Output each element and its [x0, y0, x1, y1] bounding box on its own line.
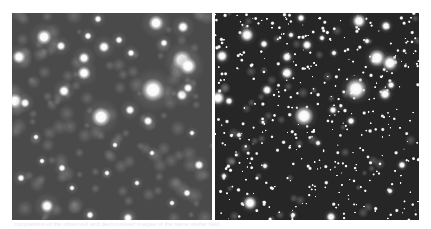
star [236, 132, 242, 138]
faint-star [412, 112, 414, 114]
background-noise [91, 167, 100, 176]
faint-star [373, 206, 378, 211]
faint-star [390, 183, 393, 186]
faint-star [337, 162, 340, 165]
star [177, 21, 189, 33]
faint-star [347, 194, 349, 196]
star [194, 160, 204, 170]
faint-star [301, 203, 303, 205]
faint-star [307, 34, 309, 36]
faint-star [399, 86, 401, 88]
star [262, 163, 268, 169]
background-noise [247, 99, 255, 107]
faint-star [336, 174, 338, 176]
faint-star [402, 212, 404, 214]
faint-star [361, 149, 364, 152]
faint-star [330, 120, 334, 124]
faint-star [414, 213, 417, 216]
faint-star [274, 186, 276, 188]
background-noise [12, 118, 28, 136]
faint-star [337, 204, 339, 206]
background-noise [361, 170, 367, 176]
faint-star [250, 157, 254, 161]
faint-star [387, 112, 389, 114]
faint-star [261, 19, 263, 21]
background-noise [405, 135, 416, 146]
faint-star [318, 18, 320, 20]
faint-star [380, 114, 384, 118]
faint-star [308, 193, 311, 196]
background-noise [66, 196, 84, 214]
faint-star [265, 181, 269, 185]
star [381, 21, 391, 31]
faint-star [417, 201, 419, 203]
faint-star [306, 132, 308, 134]
faint-star [399, 16, 404, 21]
faint-star [286, 177, 289, 180]
faint-star [341, 172, 343, 174]
faint-star [352, 179, 356, 183]
background-noise [315, 50, 324, 59]
faint-star [299, 82, 301, 84]
faint-star [254, 103, 257, 106]
faint-star [243, 107, 246, 110]
faint-star [399, 182, 401, 184]
faint-star [396, 49, 400, 53]
faint-star [344, 37, 346, 39]
faint-star [360, 134, 363, 137]
faint-star [324, 180, 329, 185]
faint-star [369, 73, 374, 78]
faint-star [407, 66, 410, 69]
faint-star [382, 75, 384, 77]
faint-star [354, 211, 356, 213]
star [104, 170, 110, 176]
faint-star [218, 66, 221, 69]
faint-star [260, 50, 264, 54]
faint-star [245, 178, 248, 181]
faint-star [277, 91, 280, 94]
faint-star [296, 92, 300, 96]
faint-star [310, 65, 312, 67]
star [387, 81, 395, 89]
faint-star [220, 72, 224, 76]
faint-star [367, 111, 370, 114]
faint-star [229, 133, 234, 138]
faint-star [288, 23, 290, 25]
star [221, 173, 227, 179]
background-noise [368, 165, 376, 173]
faint-star [368, 129, 373, 134]
background-noise [42, 13, 53, 22]
background-noise [332, 25, 343, 36]
star [36, 29, 52, 45]
faint-star [352, 60, 355, 63]
faint-star [415, 209, 417, 211]
faint-star [221, 124, 223, 126]
faint-star [405, 52, 407, 54]
faint-star [388, 134, 390, 136]
background-noise [209, 142, 213, 149]
faint-star [252, 77, 256, 81]
faint-star [332, 129, 334, 131]
background-noise [113, 81, 126, 94]
star [382, 55, 398, 71]
faint-star [215, 18, 218, 22]
faint-star [250, 166, 254, 170]
faint-star [313, 161, 316, 164]
faint-star [317, 168, 319, 170]
faint-star [301, 67, 305, 71]
faint-star [289, 20, 293, 24]
faint-star [311, 184, 314, 187]
faint-star [268, 206, 271, 209]
background-noise [16, 200, 33, 217]
faint-star [327, 76, 329, 78]
faint-star [263, 123, 266, 126]
faint-star [287, 13, 291, 17]
star [143, 116, 153, 126]
background-noise [91, 184, 101, 194]
faint-star [282, 13, 287, 17]
faint-star [281, 140, 286, 145]
faint-star [417, 60, 419, 62]
faint-star [221, 142, 224, 145]
background-noise [192, 100, 201, 109]
faint-star [323, 20, 327, 24]
